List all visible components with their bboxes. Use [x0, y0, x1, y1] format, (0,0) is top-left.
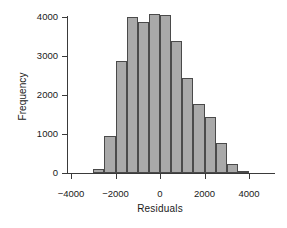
histogram-bar: [116, 61, 127, 173]
histogram-bar: [93, 169, 104, 173]
histogram-bar: [138, 22, 149, 173]
histogram-bar: [216, 143, 227, 173]
histogram-bar: [193, 104, 204, 173]
histogram-bar: [182, 78, 193, 173]
histogram-bar: [104, 136, 115, 173]
histogram-figure: Frequency Residuals 01000200030004000 −4…: [0, 0, 287, 228]
histogram-bar: [160, 15, 171, 173]
histogram-bar: [205, 117, 216, 173]
histogram-bar: [127, 17, 138, 173]
histogram-bar: [149, 14, 160, 173]
histogram-bar: [227, 164, 238, 173]
histogram-bar: [171, 41, 182, 173]
histogram-bars: [0, 0, 287, 228]
histogram-bar: [238, 171, 249, 173]
